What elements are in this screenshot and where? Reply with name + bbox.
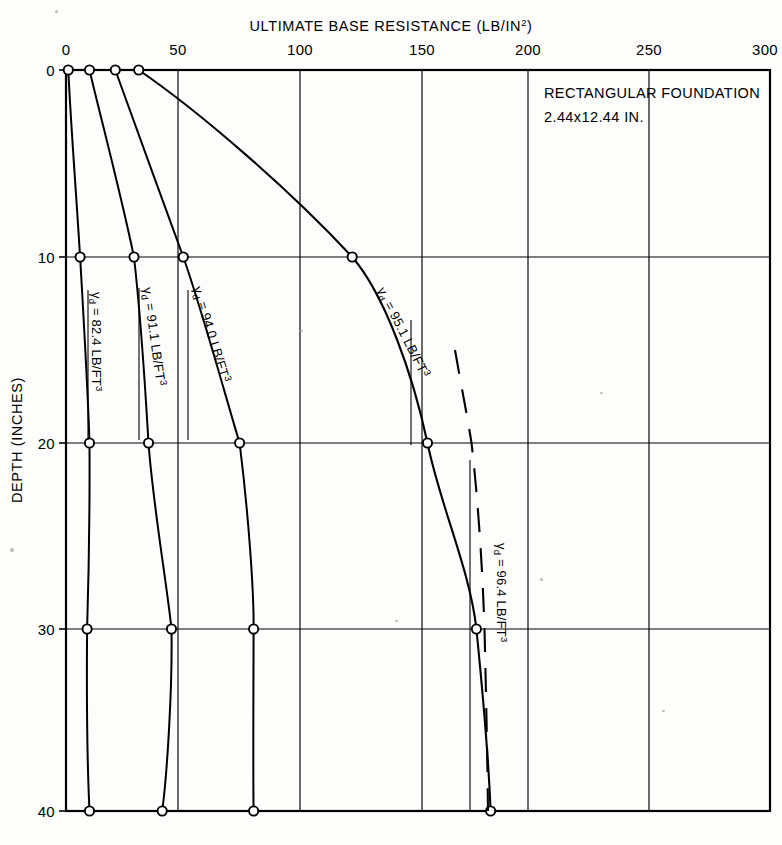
curve-label-96-4: γd = 96.4 LB/FT3 [492, 543, 510, 642]
x-tick-label-100: 100 [287, 41, 313, 58]
y-tick-label-20: 20 [38, 435, 55, 452]
chart-title-main: ULTIMATE BASE RESISTANCE (LB/IN [250, 18, 522, 34]
data-point-marker [111, 65, 120, 74]
vertical-gridlines [178, 70, 649, 811]
data-point-marker [129, 252, 138, 261]
curve-label-main: = 94.0 LB/FT [195, 300, 232, 379]
curve-label-main: = 96.4 LB/FT [494, 559, 509, 637]
data-point-marker [85, 65, 94, 74]
curve-label-91-1: γd = 91.1 LB/FT3 [138, 286, 170, 387]
y-tick-label-30: 30 [38, 621, 55, 638]
y-tick-labels: 0 10 20 30 40 [38, 62, 55, 820]
series-curve-96-4 [455, 350, 488, 811]
plot-border [66, 70, 770, 811]
data-point-marker [158, 806, 167, 815]
curve-label-82-4: γd = 82.4 LB/FT3 [87, 292, 105, 391]
series-line-95-1 [139, 70, 491, 811]
curve-label-superscript: 3 [94, 386, 105, 391]
curve-label-94-0: γd = 94.0 LB/FT3 [188, 284, 234, 384]
data-point-marker [472, 624, 481, 633]
horizontal-gridlines [66, 257, 770, 629]
svg-text:γd = 91.1 LB/FT3: γd = 91.1 LB/FT3 [138, 286, 170, 387]
series-markers-91-1 [85, 65, 176, 815]
curve-label-main: = 91.1 LB/FT [142, 302, 168, 381]
curve-label-superscript: 3 [499, 637, 510, 642]
series-markers-95-1 [134, 65, 495, 815]
svg-text:ULTIMATE BASE RESISTANCE (LB/I: ULTIMATE BASE RESISTANCE (LB/IN2) [250, 17, 533, 34]
figure-container: ULTIMATE BASE RESISTANCE (LB/IN2) DEPTH … [0, 0, 782, 845]
annotation-line-2: 2.44x12.44 IN. [544, 109, 644, 125]
curve-label-main: = 82.4 LB/FT [89, 308, 104, 386]
x-tick-labels: 0 50 100 150 200 250 300 [62, 41, 778, 58]
series-markers-82-4 [64, 65, 94, 815]
data-point-marker [144, 438, 153, 447]
data-point-marker [134, 65, 143, 74]
data-point-marker [85, 438, 94, 447]
svg-text:γd = 96.4 LB/FT3: γd = 96.4 LB/FT3 [492, 543, 510, 642]
svg-text:γd = 95.1 LB/FT3: γd = 95.1 LB/FT3 [373, 284, 434, 381]
series-curve-91-1 [85, 65, 176, 815]
svg-text:γd = 94.0 LB/FT3: γd = 94.0 LB/FT3 [188, 284, 234, 384]
data-point-marker [235, 438, 244, 447]
data-point-marker [64, 65, 73, 74]
plot-frame [66, 70, 770, 811]
y-tick-label-0: 0 [46, 62, 55, 79]
annotation-line-1: RECTANGULAR FOUNDATION [544, 85, 760, 101]
x-tick-label-150: 150 [409, 41, 435, 58]
series-curve-95-1 [134, 65, 495, 815]
y-axis-label-text: DEPTH (INCHES) [9, 377, 25, 503]
series-curve-94-0 [111, 65, 259, 815]
data-point-marker [348, 252, 357, 261]
data-point-marker [83, 624, 92, 633]
x-tick-label-200: 200 [515, 41, 541, 58]
series-line-91-1 [90, 70, 172, 811]
y-tick-label-10: 10 [38, 249, 55, 266]
x-tick-label-250: 250 [636, 41, 662, 58]
series-markers-94-0 [111, 65, 259, 815]
series-line-94-0 [115, 70, 253, 811]
series-line-96-4-dashed [455, 350, 488, 811]
chart-title: ULTIMATE BASE RESISTANCE (LB/IN2) [250, 17, 533, 34]
data-point-marker [179, 252, 188, 261]
series-curve-82-4 [64, 65, 94, 815]
data-point-marker [249, 624, 258, 633]
data-point-marker [76, 252, 85, 261]
ultimate-base-resistance-chart: ULTIMATE BASE RESISTANCE (LB/IN2) DEPTH … [0, 0, 782, 845]
data-point-marker [167, 624, 176, 633]
data-point-marker [85, 806, 94, 815]
chart-title-tail: ) [527, 18, 532, 34]
y-axis-label: DEPTH (INCHES) [9, 377, 25, 503]
x-tick-label-300: 300 [752, 41, 778, 58]
curve-label-superscript: 3 [158, 379, 170, 386]
data-point-marker [249, 806, 258, 815]
y-tick-label-40: 40 [38, 803, 55, 820]
svg-text:γd = 82.4 LB/FT3: γd = 82.4 LB/FT3 [87, 292, 105, 391]
x-tick-label-0: 0 [62, 41, 71, 58]
curve-label-95-1: γd = 95.1 LB/FT3 [373, 284, 434, 381]
data-point-marker [423, 438, 432, 447]
x-tick-label-50: 50 [169, 41, 186, 58]
foundation-annotation: RECTANGULAR FOUNDATION 2.44x12.44 IN. [544, 85, 760, 125]
